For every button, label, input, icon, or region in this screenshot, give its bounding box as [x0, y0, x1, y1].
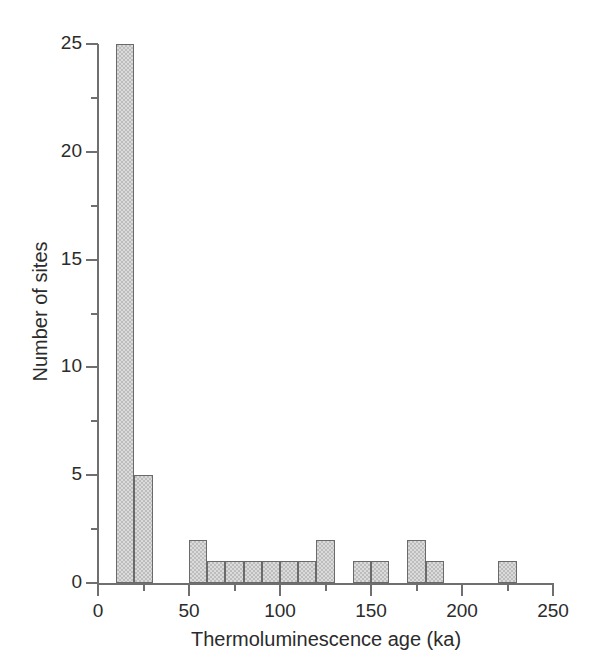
histogram-bar	[316, 540, 334, 583]
histogram-bar	[189, 540, 207, 583]
x-axis-tick	[279, 585, 281, 596]
histogram-bar	[134, 475, 152, 583]
y-axis-minor-tick	[91, 97, 98, 99]
y-axis-tick	[86, 259, 98, 261]
x-axis-tick	[552, 585, 554, 596]
x-axis-tick-label: 250	[518, 600, 588, 622]
y-axis-tick	[86, 366, 98, 368]
x-axis-tick-label: 150	[336, 600, 406, 622]
y-axis-tick-label: 0	[36, 571, 82, 593]
x-axis-minor-tick	[507, 585, 509, 591]
y-axis-tick-label: 5	[36, 463, 82, 485]
x-axis-tick-label: 100	[245, 600, 315, 622]
y-axis-minor-tick	[91, 313, 98, 315]
histogram-bar	[262, 561, 280, 583]
y-axis-tick-label: 20	[36, 140, 82, 162]
x-axis-tick-label: 200	[427, 600, 497, 622]
y-axis-line	[97, 44, 99, 585]
x-axis-tick	[370, 585, 372, 596]
x-axis-tick-label: 0	[63, 600, 133, 622]
y-axis-tick	[86, 43, 98, 45]
histogram-bar	[280, 561, 298, 583]
histogram-bar	[498, 561, 516, 583]
histogram-bar	[426, 561, 444, 583]
y-axis-minor-tick	[91, 528, 98, 530]
histogram-bar	[244, 561, 262, 583]
histogram-bar	[207, 561, 225, 583]
histogram-bar	[225, 561, 243, 583]
x-axis-minor-tick	[416, 585, 418, 591]
histogram-bar	[116, 44, 134, 583]
plot-area: 050100150200250 0510152025 Thermolumines…	[0, 0, 600, 671]
y-axis-minor-tick	[91, 205, 98, 207]
x-axis-minor-tick	[325, 585, 327, 591]
histogram-bar	[298, 561, 316, 583]
y-axis-tick	[86, 474, 98, 476]
x-axis-minor-tick	[143, 585, 145, 591]
x-axis-minor-tick	[234, 585, 236, 591]
x-axis-tick	[97, 585, 99, 596]
histogram-bar	[371, 561, 389, 583]
y-axis-minor-tick	[91, 420, 98, 422]
y-axis-tick	[86, 582, 98, 584]
y-axis-title: Number of sites	[29, 182, 52, 442]
histogram-bar	[407, 540, 425, 583]
x-axis-tick	[461, 585, 463, 596]
histogram-figure: 050100150200250 0510152025 Thermolumines…	[0, 0, 600, 671]
histogram-bar	[353, 561, 371, 583]
x-axis-title: Thermoluminescence age (ka)	[98, 628, 554, 651]
x-axis-tick	[188, 585, 190, 596]
y-axis-tick	[86, 151, 98, 153]
y-axis-tick-label: 25	[36, 32, 82, 54]
x-axis-tick-label: 50	[154, 600, 224, 622]
